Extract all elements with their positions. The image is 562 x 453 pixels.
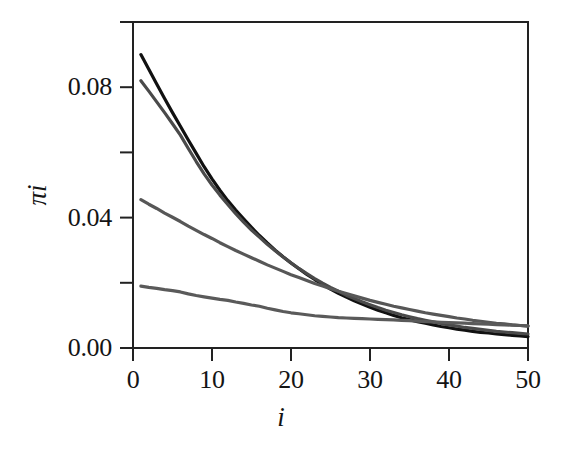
x-tick-label: 30 <box>330 367 410 393</box>
x-tick-label: 10 <box>172 367 252 393</box>
x-tick-label: 50 <box>488 367 562 393</box>
y-axis-title: πi <box>24 184 51 205</box>
plot-frame <box>133 22 528 348</box>
x-tick-label: 0 <box>93 367 173 393</box>
plot-frame-rect <box>133 22 528 348</box>
x-axis-title: i <box>0 404 562 431</box>
chart-figure: πi i 0.000.040.08 01020304050 <box>0 0 562 453</box>
y-tick-label: 0.04 <box>10 205 112 231</box>
y-tick-label: 0.00 <box>10 335 112 361</box>
x-tick-label: 20 <box>251 367 331 393</box>
y-tick-label: 0.08 <box>10 74 112 100</box>
x-tick-label: 40 <box>409 367 489 393</box>
